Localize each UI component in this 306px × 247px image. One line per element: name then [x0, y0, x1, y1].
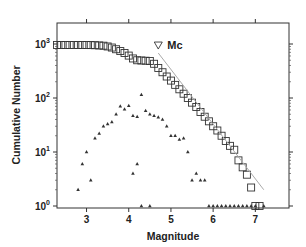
cumulative-point [159, 69, 166, 76]
cumulative-point [83, 41, 90, 48]
cumulative-point [134, 57, 141, 64]
x-tick-label: 4 [126, 214, 132, 225]
cumulative-point [243, 171, 250, 178]
y-tick-label: 100 [35, 199, 50, 212]
magnitude-frequency-chart: Mc 34567100101102103 Magnitude Cumulativ… [0, 0, 306, 247]
cumulative-point [176, 86, 183, 93]
noncumulative-point [102, 124, 106, 127]
noncumulative-point [165, 124, 169, 127]
noncumulative-point [232, 204, 236, 207]
noncumulative-point [127, 104, 131, 107]
noncumulative-point [135, 162, 139, 165]
x-axis-label: Magnitude [147, 230, 200, 242]
x-tick-label: 7 [253, 214, 259, 225]
noncumulative-point [135, 115, 139, 118]
noncumulative-point [140, 204, 144, 207]
x-tick-label: 5 [168, 214, 174, 225]
cumulative-point [117, 48, 124, 55]
noncumulative-point [119, 104, 123, 107]
noncumulative-point [237, 204, 241, 207]
noncumulative-point [173, 134, 177, 137]
noncumulative-point [190, 178, 194, 181]
cumulative-point [129, 55, 136, 62]
noncumulative-point [199, 178, 203, 181]
y-axis-label: Cumulative Number [10, 65, 22, 164]
noncumulative-point [169, 134, 173, 137]
noncumulative-point [182, 136, 186, 139]
noncumulative-point [152, 114, 156, 117]
cumulative-point [167, 77, 174, 84]
noncumulative-point [131, 171, 135, 174]
mc-label: Mc [167, 39, 182, 51]
cumulative-point [197, 109, 204, 116]
cumulative-point [180, 90, 187, 97]
noncumulative-point [249, 204, 253, 207]
y-tick-label: 102 [35, 91, 50, 104]
noncumulative-point [224, 204, 228, 207]
noncumulative-point [123, 107, 127, 110]
noncumulative-point [211, 204, 215, 207]
cumulative-point [113, 46, 120, 53]
noncumulative-point [216, 204, 220, 207]
x-tick-label: 6 [210, 214, 216, 225]
noncumulative-point [97, 132, 101, 135]
noncumulative-point [156, 115, 160, 118]
y-tick-label: 103 [35, 37, 50, 50]
y-tick-label: 101 [35, 145, 50, 158]
cumulative-point [58, 41, 65, 48]
plot-area: Mc [54, 39, 266, 209]
noncumulative-point [93, 136, 97, 139]
cumulative-point [193, 104, 200, 111]
noncumulative-point [203, 178, 207, 181]
cumulative-point [146, 57, 153, 64]
cumulative-point [96, 42, 103, 49]
cumulative-point [87, 42, 94, 49]
noncumulative-point [131, 114, 135, 117]
noncumulative-point [110, 120, 114, 123]
cumulative-point [91, 42, 98, 49]
cumulative-point [62, 41, 69, 48]
noncumulative-point [186, 150, 190, 153]
cumulative-point [70, 41, 77, 48]
noncumulative-point [148, 204, 152, 207]
x-tick-label: 3 [84, 214, 90, 225]
noncumulative-point [76, 188, 80, 191]
noncumulative-point [114, 112, 118, 115]
noncumulative-point [228, 204, 232, 207]
cumulative-point [66, 41, 73, 48]
noncumulative-point [144, 109, 148, 112]
cumulative-point [79, 41, 86, 48]
noncumulative-point [262, 204, 266, 207]
cumulative-point [142, 57, 149, 64]
noncumulative-point [81, 162, 85, 165]
cumulative-point [184, 95, 191, 102]
noncumulative-point [178, 138, 182, 141]
noncumulative-point [241, 204, 245, 207]
noncumulative-point [85, 150, 89, 153]
cumulative-point [138, 57, 145, 64]
noncumulative-point [161, 117, 165, 120]
cumulative-point [155, 64, 162, 71]
noncumulative-point [220, 204, 224, 207]
noncumulative-point [106, 122, 110, 125]
noncumulative-point [194, 171, 198, 174]
mc-marker-icon [154, 42, 162, 49]
noncumulative-point [254, 204, 258, 207]
cumulative-point [163, 73, 170, 80]
noncumulative-point [245, 204, 249, 207]
fit-line [158, 53, 264, 190]
axes: 34567100101102103 [35, 19, 293, 225]
cumulative-point [151, 60, 158, 67]
noncumulative-point [140, 93, 144, 96]
cumulative-point [248, 184, 255, 191]
cumulative-point [75, 41, 82, 48]
cumulative-point [121, 50, 128, 57]
cumulative-point [172, 81, 179, 88]
noncumulative-point [148, 112, 152, 115]
cumulative-point [125, 52, 132, 59]
noncumulative-point [207, 204, 211, 207]
noncumulative-point [89, 178, 93, 181]
